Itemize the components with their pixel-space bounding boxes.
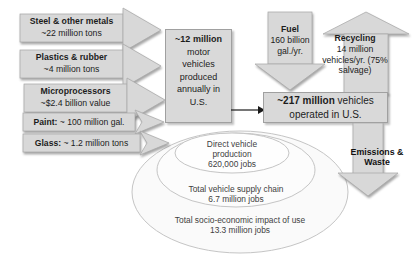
input-microprocessors-value: ~$2.4 billion value [24,97,127,109]
input-plastics-title: Plastics & rubber [20,51,123,63]
production-box-text: ~12 million motor vehicles produced annu… [165,33,232,109]
jobs-direct-production: Direct vehicle production 620,000 jobs [190,139,274,170]
input-paint: Paint: ~ 100 million gal. [23,117,135,128]
jobs-supply-chain-label: Total vehicle supply chain [156,184,316,194]
jobs-socio-economic-value: 13.3 million jobs [140,225,340,235]
fuel-title: Fuel [262,24,318,35]
production-box-highlight: ~12 million [175,34,222,44]
input-steel: Steel & other metals ~22 million tons [20,15,123,39]
input-plastics: Plastics & rubber ~4 million tons [20,51,123,75]
fuel-label: Fuel 160 billion gal./yr. [262,24,318,56]
recycling-title: Recycling [322,33,388,44]
recycling-label: Recycling 14 million vehicles/yr. (75% s… [322,33,388,76]
vehicle-lifecycle-diagram: Steel & other metals ~22 million tons Pl… [0,0,414,257]
input-paint-value: ~ 100 million gal. [60,117,125,127]
input-steel-title: Steel & other metals [20,15,123,27]
input-steel-value: ~22 million tons [20,27,123,39]
production-box-rest: motor vehicles produced annually in U.S. [177,47,220,107]
input-plastics-value: ~4 million tons [20,63,123,75]
input-glass: Glass: ~ 1.2 million tons [23,138,140,149]
input-paint-title: Paint: [34,117,58,127]
operated-box-highlight: ~217 million [277,95,335,106]
input-microprocessors-title: Microprocessors [24,85,127,97]
operated-box-text: ~217 million vehicles operated in U.S. [263,94,388,121]
input-microprocessors: Microprocessors ~$2.4 billion value [24,85,127,109]
input-glass-value: ~ 1.2 million tons [63,138,128,148]
jobs-supply-chain-value: 6.7 million jobs [156,194,316,204]
flow-arrow-icon [231,103,265,117]
jobs-direct-production-value: 620,000 jobs [190,159,274,169]
fuel-value: 160 billion gal./yr. [270,35,309,56]
emissions-label: Emissions & Waste [350,148,404,167]
jobs-socio-economic: Total socio-economic impact of use 13.3 … [140,215,340,235]
input-glass-title: Glass: [35,138,61,148]
jobs-supply-chain: Total vehicle supply chain 6.7 million j… [156,184,316,204]
jobs-socio-economic-label: Total socio-economic impact of use [140,215,340,225]
recycling-value: 14 million vehicles/yr. (75% salvage) [322,44,388,76]
jobs-direct-production-label: Direct vehicle production [190,139,274,159]
